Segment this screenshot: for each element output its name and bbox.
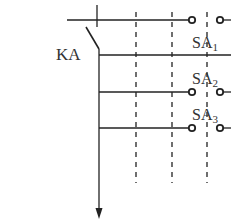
switch-label-sa1: SA1	[192, 34, 218, 53]
circuit-diagram: KA SA1 SA2 SA3	[0, 0, 231, 221]
contact-terminal-icon	[189, 17, 195, 23]
contact-terminal-icon	[217, 17, 223, 23]
arrow-down-icon	[96, 208, 103, 219]
contact-terminal-icon	[189, 125, 195, 131]
switch-label-sa3: SA3	[192, 106, 218, 125]
relay-label: KA	[56, 45, 81, 64]
ka-contact-blade	[86, 27, 99, 49]
contact-terminal-icon	[217, 125, 223, 131]
contact-terminal-icon	[189, 89, 195, 95]
contact-terminal-icon	[217, 89, 223, 95]
switch-label-sa2: SA2	[192, 70, 218, 89]
